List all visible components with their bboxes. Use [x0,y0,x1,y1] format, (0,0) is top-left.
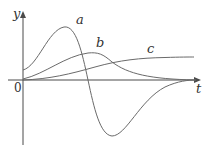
curve-a [23,27,196,136]
curve-b-label: b [96,35,104,50]
curve-b [23,53,195,80]
curve-a-label: a [76,12,84,27]
origin-label: 0 [14,81,22,95]
t-axis-label: t [196,81,202,96]
curve-c-label: c [147,41,155,56]
y-axis-label: y [12,6,21,21]
y-axis-arrow-icon [20,11,26,18]
chart-figure: y t 0 a b c [0,0,203,148]
chart-svg: y t 0 a b c [0,0,203,148]
